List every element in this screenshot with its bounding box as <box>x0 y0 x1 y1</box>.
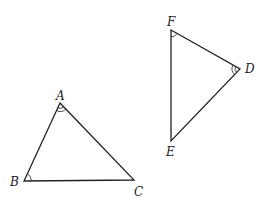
angle-a-mark-outer <box>57 109 67 111</box>
vertex-label-b: B <box>9 175 19 189</box>
vertex-label-c: C <box>134 185 143 199</box>
angle-f-mark <box>171 34 177 38</box>
vertex-label-d: D <box>244 62 255 76</box>
triangle-def-outline <box>171 30 240 141</box>
triangle-abc-outline <box>24 103 134 181</box>
vertex-label-e: E <box>165 145 175 159</box>
vertex-label-a: A <box>55 89 65 103</box>
geometry-diagram: A B C F D E <box>0 0 270 202</box>
angle-b-mark <box>28 174 32 181</box>
triangle-def: F D E <box>165 15 255 159</box>
triangle-abc: A B C <box>9 89 143 199</box>
vertex-label-f: F <box>166 15 176 29</box>
